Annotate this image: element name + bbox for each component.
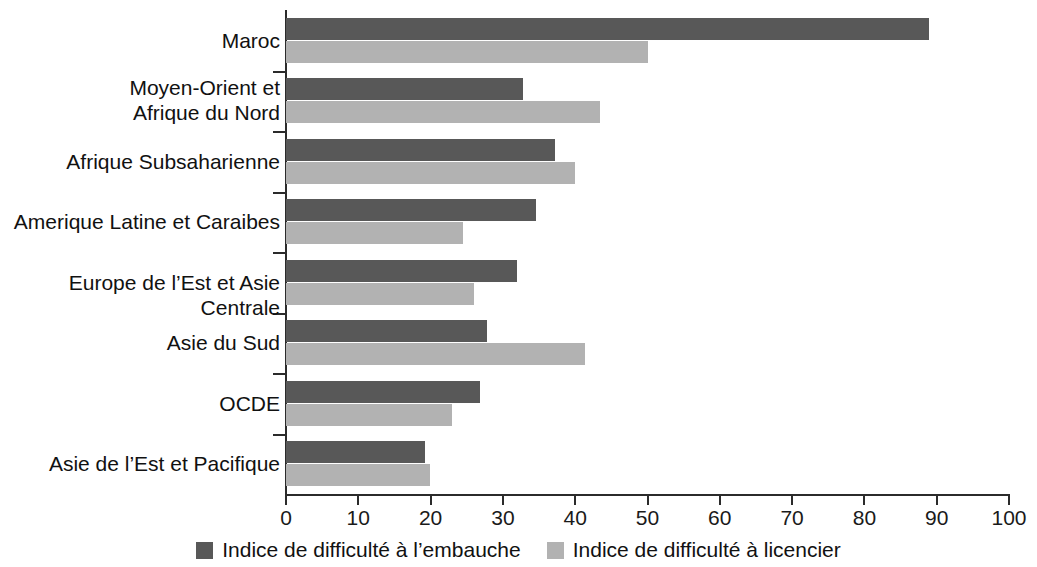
category-row [0, 313, 1037, 374]
x-axis-tick-label: 80 [853, 506, 876, 530]
category-row [0, 192, 1037, 253]
category-row [0, 10, 1037, 71]
category-row [0, 71, 1037, 132]
x-axis-tick [863, 496, 865, 505]
category-row [0, 252, 1037, 313]
x-axis-tick [1008, 496, 1010, 505]
x-axis-tick [285, 496, 287, 505]
x-axis-tick-label: 70 [780, 506, 803, 530]
legend-label: Indice de difficulté à l’embauche [222, 538, 520, 562]
x-axis-tick [791, 496, 793, 505]
x-axis-tick-label: 50 [636, 506, 659, 530]
category-row [0, 373, 1037, 434]
category-row [0, 434, 1037, 495]
legend-swatch-icon [547, 542, 564, 559]
x-axis-tick-label: 10 [347, 506, 370, 530]
legend-item: Indice de difficulté à licencier [547, 538, 841, 562]
x-axis-tick-label: 20 [419, 506, 442, 530]
legend-item: Indice de difficulté à l’embauche [196, 538, 520, 562]
x-axis-tick [647, 496, 649, 505]
category-row [0, 131, 1037, 192]
x-axis-tick [936, 496, 938, 505]
x-axis-tick-label: 90 [925, 506, 948, 530]
x-axis-tick-label: 0 [280, 506, 292, 530]
x-axis-tick-label: 40 [564, 506, 587, 530]
x-axis-tick-label: 60 [708, 506, 731, 530]
legend-swatch-icon [196, 542, 213, 559]
x-axis-tick-label: 100 [991, 506, 1026, 530]
chart-legend: Indice de difficulté à l’embaucheIndice … [0, 538, 1037, 562]
x-axis-tick [719, 496, 721, 505]
x-axis-tick [574, 496, 576, 505]
x-axis-tick [502, 496, 504, 505]
x-axis-tick [357, 496, 359, 505]
x-axis-tick [430, 496, 432, 505]
x-axis-tick-label: 30 [491, 506, 514, 530]
legend-label: Indice de difficulté à licencier [573, 538, 841, 562]
horizontal-bar-chart: MarocMoyen-Orient et Afrique du NordAfri… [0, 0, 1037, 567]
